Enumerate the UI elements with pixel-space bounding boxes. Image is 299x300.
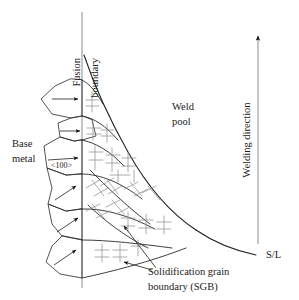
growth-arrow-5 xyxy=(57,218,78,232)
welding-direction-label: Welding direction xyxy=(241,102,252,178)
base-metal-grain-5 xyxy=(48,204,82,240)
base-metal-grain-4 xyxy=(47,168,82,211)
base-metal-grain-2 xyxy=(58,116,96,141)
orientation-label: <100> xyxy=(51,161,73,170)
sgb-6 xyxy=(82,240,172,248)
sl-label: S/L xyxy=(266,249,281,260)
weld-solidification-figure: Fusion boundary Weld pool Base metal <10… xyxy=(0,0,299,300)
diagram-canvas: Fusion boundary Weld pool Base metal <10… xyxy=(0,0,299,300)
sgb-3 xyxy=(82,140,124,166)
sgb-diagonal-1 xyxy=(90,170,150,224)
growth-direction-arrow-group xyxy=(48,99,80,265)
solid-liquid-interface-curve xyxy=(196,230,256,255)
base-label: Base xyxy=(12,138,33,149)
metal-label: metal xyxy=(12,153,35,164)
growth-arrow-6 xyxy=(54,250,76,265)
base-metal-grain-group xyxy=(41,79,96,278)
boundary-label: boundary xyxy=(89,57,100,97)
fusion-boundary-curve xyxy=(84,55,196,230)
pool-label: pool xyxy=(172,116,191,127)
weld-label: Weld xyxy=(172,101,195,112)
base-metal-grain-6 xyxy=(46,236,82,278)
dendrite-cluster-lower-right xyxy=(95,182,171,262)
sgb-label-line1: Solidification grain xyxy=(148,266,230,277)
growth-arrow-3-orientation xyxy=(48,158,78,160)
sgb-label-line2: boundary (SGB) xyxy=(148,281,218,293)
dendrite-cluster-lower-left xyxy=(86,178,130,218)
fusion-label: Fusion xyxy=(71,57,82,86)
growth-arrow-4 xyxy=(55,186,76,200)
sgb-leader-1 xyxy=(124,226,156,268)
